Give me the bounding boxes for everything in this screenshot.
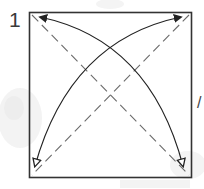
edge-mark: / [197,94,202,111]
origami-diagram: / 1 [0,0,204,189]
diagram-canvas: / [0,0,204,189]
fold-arrow-br-to-tl [40,17,183,166]
step-number: 1 [9,9,21,30]
fold-arrow-bl-to-tr [35,17,181,166]
